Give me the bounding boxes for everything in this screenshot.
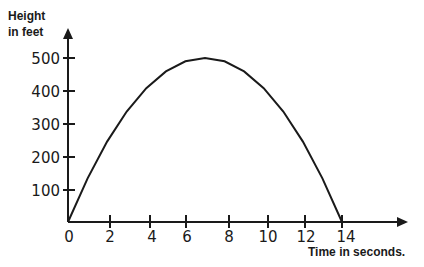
y-tick-label: 300 xyxy=(31,116,60,134)
y-tick-label: 200 xyxy=(31,149,60,167)
x-tick-label: 10 xyxy=(258,228,277,246)
x-axis-label: Time in seconds. xyxy=(308,245,405,259)
projectile-height-chart: Height in feet 500 400 300 200 100 0 2 4… xyxy=(0,0,424,267)
x-tick-label: 14 xyxy=(336,228,355,246)
x-axis-arrow-icon xyxy=(397,217,408,227)
y-axis-label-line2: in feet xyxy=(8,25,43,39)
y-tick-label: 500 xyxy=(31,50,60,68)
height-curve xyxy=(68,58,342,222)
y-tick-label: 100 xyxy=(31,182,60,200)
y-tick-label: 400 xyxy=(31,83,60,101)
y-axis-arrow-icon xyxy=(63,28,73,39)
x-tick-label: 4 xyxy=(147,228,157,246)
y-axis-label-line1: Height xyxy=(8,9,45,23)
x-tick-label: 12 xyxy=(296,228,315,246)
x-tick-label: 6 xyxy=(182,228,192,246)
x-tick-label: 0 xyxy=(64,228,74,246)
x-tick-label: 8 xyxy=(224,228,234,246)
x-tick-label: 2 xyxy=(105,228,115,246)
